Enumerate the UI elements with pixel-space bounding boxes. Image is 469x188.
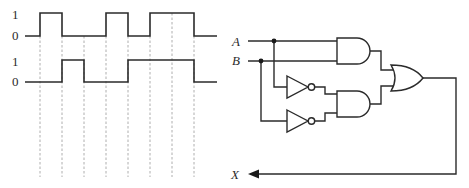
wire-and2-to-or [370, 86, 394, 104]
diagram-canvas: 1 0 1 0 A B [0, 0, 469, 188]
time-gridlines [40, 13, 194, 177]
waveform-2-high-label: 1 [12, 54, 19, 69]
wire-a-to-not1 [274, 41, 287, 87]
wire-not2-to-and2 [315, 113, 337, 121]
and-gate-1 [337, 38, 370, 64]
not-gate-1 [287, 76, 308, 98]
not-gate-2 [287, 110, 308, 132]
arrow-head-icon [248, 170, 259, 179]
input-b-label: B [232, 53, 240, 68]
waveform-1-high-label: 1 [12, 7, 19, 22]
logic-circuit: A B X [230, 34, 456, 182]
not-gate-1-bubble [308, 84, 314, 90]
waveform-1-low-label: 0 [12, 28, 19, 43]
output-x-label: X [230, 167, 240, 182]
wire-and1-to-or [370, 51, 394, 70]
and-gate-2 [337, 91, 370, 117]
waveform-1 [25, 13, 217, 36]
junction-b-dot [259, 59, 264, 64]
not-gate-2-bubble [308, 118, 314, 124]
or-gate [391, 65, 423, 91]
junction-a-dot [272, 39, 277, 44]
waveform-2 [25, 60, 217, 82]
timing-diagram: 1 0 1 0 [12, 7, 217, 177]
waveform-2-low-label: 0 [12, 74, 19, 89]
wire-not1-to-and2 [315, 87, 337, 94]
input-a-label: A [231, 34, 240, 49]
